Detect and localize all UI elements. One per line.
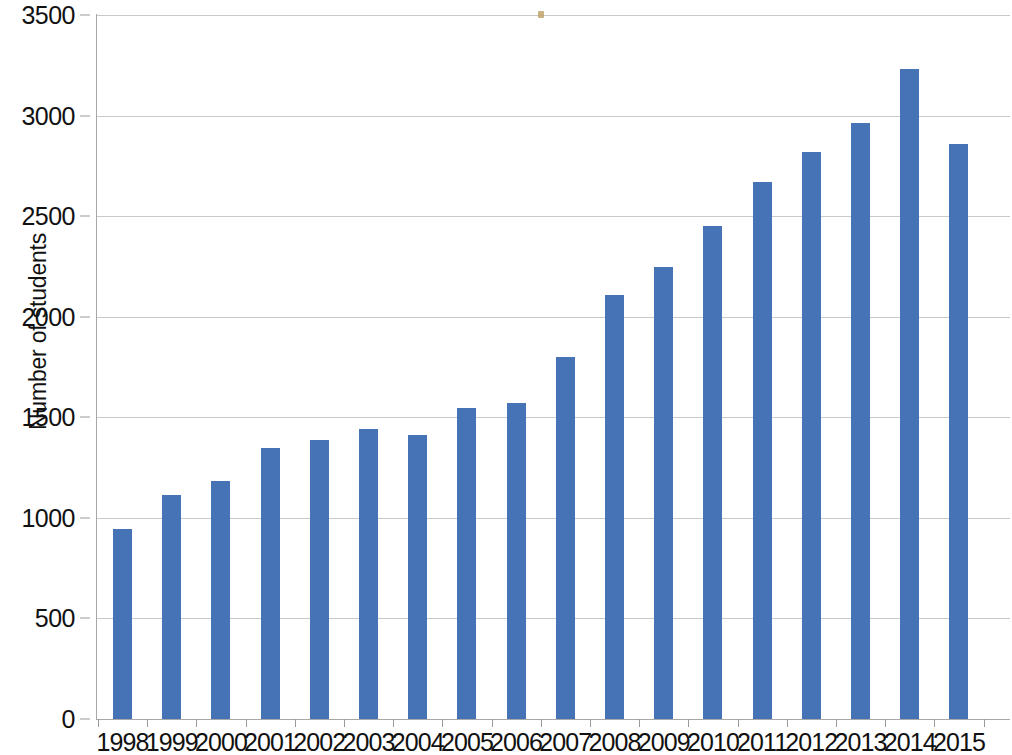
- y-tick-label: 500: [35, 604, 75, 633]
- x-tick-label-2015: 2015: [933, 728, 985, 755]
- x-tick-mark: [934, 719, 935, 727]
- x-tick-label-2012: 2012: [785, 728, 837, 755]
- x-tick-mark: [885, 719, 886, 727]
- x-tick-label-2004: 2004: [392, 728, 444, 755]
- x-tick-label-1998: 1998: [96, 728, 148, 755]
- x-tick-mark: [442, 719, 443, 727]
- scan-artifact-speck: [538, 11, 544, 18]
- x-tick-label-2011: 2011: [737, 728, 787, 755]
- bar-1999[interactable]: [162, 495, 181, 719]
- y-tick-label: 2500: [21, 202, 75, 231]
- bar-2012[interactable]: [802, 152, 821, 719]
- x-tick-mark: [492, 719, 493, 727]
- x-tick-label-2009: 2009: [638, 728, 690, 755]
- x-tick-mark: [344, 719, 345, 727]
- x-tick-mark: [984, 719, 985, 727]
- bar-2014[interactable]: [900, 69, 919, 719]
- x-tick-mark: [836, 719, 837, 727]
- y-tick-label: 1000: [21, 503, 75, 532]
- x-tick-mark: [639, 719, 640, 727]
- y-tick-mark: [80, 216, 90, 217]
- bar-2009[interactable]: [654, 267, 673, 719]
- x-tick-mark: [393, 719, 394, 727]
- y-tick-label: 3500: [21, 1, 75, 30]
- bar-2005[interactable]: [457, 408, 476, 719]
- bar-2001[interactable]: [261, 448, 280, 719]
- x-tick-label-2000: 2000: [195, 728, 247, 755]
- bar-2002[interactable]: [310, 440, 329, 719]
- x-tick-mark: [787, 719, 788, 727]
- x-tick-mark: [246, 719, 247, 727]
- x-tick-label-2007: 2007: [539, 728, 591, 755]
- y-tick-mark: [80, 115, 90, 116]
- x-tick-label-2008: 2008: [588, 728, 640, 755]
- x-tick-label-1999: 1999: [146, 728, 198, 755]
- bar-2011[interactable]: [753, 182, 772, 719]
- bar-2007[interactable]: [556, 357, 575, 719]
- x-tick-mark: [147, 719, 148, 727]
- y-tick-mark: [80, 15, 90, 16]
- x-axis-tick-labels: 1998199920002001200220032004200520062007…: [0, 719, 1012, 755]
- y-tick-label: 1500: [21, 403, 75, 432]
- bars-layer: [97, 15, 1010, 719]
- y-tick-mark: [80, 517, 90, 518]
- bar-2008[interactable]: [605, 295, 624, 719]
- y-axis-tick-labels: 0500100015002000250030003500: [0, 0, 97, 755]
- bar-2004[interactable]: [408, 435, 427, 719]
- y-tick-mark: [80, 618, 90, 619]
- bar-chart: Number of students 050010001500200025003…: [0, 0, 1012, 755]
- bar-2015[interactable]: [949, 144, 968, 719]
- x-tick-mark: [541, 719, 542, 727]
- plot-area: [97, 15, 1010, 719]
- bar-2000[interactable]: [211, 481, 230, 719]
- x-tick-mark: [196, 719, 197, 727]
- x-tick-mark: [738, 719, 739, 727]
- y-tick-mark: [80, 417, 90, 418]
- x-tick-mark: [295, 719, 296, 727]
- x-tick-label-2013: 2013: [834, 728, 886, 755]
- y-axis-line: [96, 14, 97, 720]
- bar-2013[interactable]: [851, 123, 870, 719]
- bar-1998[interactable]: [113, 529, 132, 719]
- x-tick-label-2002: 2002: [293, 728, 345, 755]
- x-tick-label-2014: 2014: [884, 728, 936, 755]
- y-tick-label: 3000: [21, 101, 75, 130]
- x-tick-label-2006: 2006: [490, 728, 542, 755]
- x-tick-label-2001: 2001: [244, 728, 296, 755]
- bar-2006[interactable]: [507, 403, 526, 719]
- x-tick-label-2005: 2005: [441, 728, 493, 755]
- bar-2010[interactable]: [703, 226, 722, 719]
- bar-2003[interactable]: [359, 429, 378, 719]
- x-tick-mark: [688, 719, 689, 727]
- x-tick-label-2003: 2003: [342, 728, 394, 755]
- x-tick-mark: [98, 719, 99, 727]
- x-tick-label-2010: 2010: [687, 728, 739, 755]
- y-tick-label: 2000: [21, 302, 75, 331]
- x-tick-mark: [590, 719, 591, 727]
- y-tick-mark: [80, 316, 90, 317]
